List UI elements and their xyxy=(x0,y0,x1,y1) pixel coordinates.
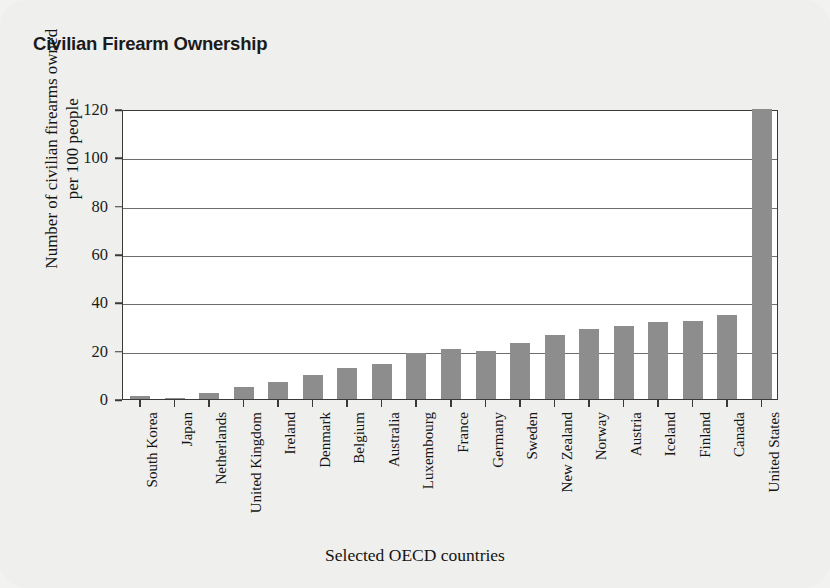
bar xyxy=(234,387,254,399)
x-tick-label: Denmark xyxy=(317,412,334,468)
x-tick-label: United Kingdom xyxy=(248,412,265,513)
y-tick-mark xyxy=(115,158,122,160)
y-tick-mark xyxy=(115,303,122,305)
y-tick-label: 20 xyxy=(92,342,109,362)
bar xyxy=(648,322,668,399)
x-tick-label: Austria xyxy=(628,412,645,456)
x-tick-mark xyxy=(277,400,279,407)
y-tick-mark xyxy=(115,109,122,111)
bar xyxy=(441,349,461,399)
x-tick-mark xyxy=(243,400,245,407)
bar xyxy=(406,353,426,399)
x-tick-mark xyxy=(450,400,452,407)
bar xyxy=(199,393,219,399)
x-tick-mark xyxy=(485,400,487,407)
x-tick-mark xyxy=(554,400,556,407)
bar-series xyxy=(123,111,777,399)
bar xyxy=(372,364,392,399)
y-tick-mark xyxy=(115,351,122,353)
x-axis-label: Selected OECD countries xyxy=(0,545,830,566)
x-tick-label: Sweden xyxy=(524,412,541,460)
bar xyxy=(476,351,496,399)
x-tick-label: Japan xyxy=(179,412,196,446)
bar xyxy=(130,396,150,399)
x-tick-label: Luxembourg xyxy=(420,412,437,489)
x-tick-label: Norway xyxy=(593,412,610,460)
y-axis-label-line-2: per 100 people xyxy=(63,0,84,334)
bar xyxy=(717,315,737,399)
x-tick-mark xyxy=(588,400,590,407)
x-tick-mark xyxy=(726,400,728,407)
y-tick-label: 40 xyxy=(92,293,109,313)
x-tick-mark xyxy=(381,400,383,407)
y-tick-mark xyxy=(115,206,122,208)
x-tick-mark xyxy=(415,400,417,407)
y-tick-label: 60 xyxy=(92,245,109,265)
y-tick-label: 120 xyxy=(83,100,108,120)
x-tick-label: Germany xyxy=(490,412,507,468)
y-tick-label: 100 xyxy=(83,148,108,168)
y-axis-label: Number of civilian firearms owned per 10… xyxy=(42,0,83,334)
x-tick-mark xyxy=(312,400,314,407)
x-tick-label: Canada xyxy=(731,412,748,457)
bar xyxy=(545,335,565,399)
x-tick-mark xyxy=(519,400,521,407)
x-tick-mark xyxy=(208,400,210,407)
bar xyxy=(752,109,772,399)
x-tick-mark xyxy=(174,400,176,407)
y-tick-label: 80 xyxy=(92,197,109,217)
bar xyxy=(683,321,703,399)
x-tick-label: New Zealand xyxy=(559,412,576,492)
x-tick-label: Iceland xyxy=(662,412,679,456)
bar xyxy=(165,398,185,400)
bar xyxy=(579,329,599,399)
x-tick-label: Netherlands xyxy=(213,412,230,484)
bar xyxy=(268,382,288,399)
plot-area xyxy=(122,110,778,400)
x-tick-label: Ireland xyxy=(282,412,299,454)
x-tick-label: France xyxy=(455,412,472,453)
x-tick-label: Belgium xyxy=(351,412,368,464)
bar xyxy=(337,368,357,399)
y-axis-label-line-1: Number of civilian firearms owned xyxy=(42,0,63,334)
x-tick-mark xyxy=(692,400,694,407)
y-axis: 020406080100120 Number of civilian firea… xyxy=(0,0,122,588)
bar xyxy=(510,343,530,399)
x-tick-label: South Korea xyxy=(144,412,161,487)
x-tick-mark xyxy=(623,400,625,407)
x-tick-mark xyxy=(761,400,763,407)
x-tick-label: Finland xyxy=(697,412,714,458)
x-tick-label: United States xyxy=(766,412,783,492)
y-tick-mark xyxy=(115,399,122,401)
bar xyxy=(614,326,634,399)
x-tick-mark xyxy=(657,400,659,407)
x-tick-mark xyxy=(139,400,141,407)
chart-card: Civilian Firearm Ownership 0204060801001… xyxy=(0,0,830,588)
y-tick-label: 0 xyxy=(100,390,108,410)
x-tick-label: Australia xyxy=(386,412,403,467)
x-tick-mark xyxy=(346,400,348,407)
bar xyxy=(303,375,323,399)
y-tick-mark xyxy=(115,254,122,256)
